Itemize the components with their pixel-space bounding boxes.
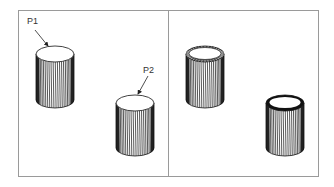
point-label-p2: P2 <box>143 65 154 75</box>
leader-arrow-p2 <box>138 76 148 94</box>
top-face <box>36 46 74 62</box>
top-face <box>189 48 221 60</box>
point-label-p1: P1 <box>27 16 38 26</box>
cylinder-p2: P2 <box>116 65 154 156</box>
cylinder-p2-result <box>266 95 304 156</box>
leader-arrow-p1 <box>35 30 48 46</box>
top-face <box>270 97 301 108</box>
panel-after <box>186 46 304 156</box>
panel-before: P1P2 <box>27 16 154 156</box>
cylinder-p1-result <box>186 46 224 108</box>
diagram-canvas: P1P2 <box>0 0 334 187</box>
cylinder-p1: P1 <box>27 16 74 108</box>
top-face <box>116 95 154 111</box>
